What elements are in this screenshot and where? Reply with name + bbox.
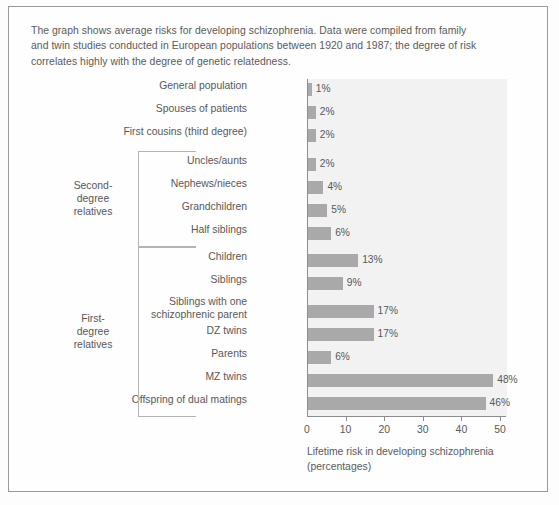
bar-value-label: 2%	[320, 157, 335, 171]
bar	[308, 129, 316, 142]
group-label-second-degree-relatives: Second- degree relatives	[57, 179, 129, 218]
x-axis-title-line2: (percentages)	[307, 461, 371, 472]
bar-value-label: 1%	[316, 82, 331, 96]
x-axis-tick	[461, 416, 462, 421]
bar	[308, 328, 374, 341]
bar-row: Children13%	[9, 250, 549, 272]
bar-row: Uncles/aunts2%	[9, 154, 549, 176]
x-axis-tick-label: 30	[408, 423, 438, 436]
bar-value-label: 4%	[327, 180, 342, 194]
bar-value-label: 9%	[347, 276, 362, 290]
bar-row: First cousins (third degree)2%	[9, 125, 549, 147]
bar-row: General population1%	[9, 79, 549, 101]
bar	[308, 106, 316, 119]
x-axis-tick	[384, 416, 385, 421]
bar-row-label: General population	[37, 79, 247, 92]
group-bracket	[138, 151, 196, 247]
bar	[308, 277, 343, 290]
bar	[308, 83, 312, 96]
bar	[308, 254, 358, 267]
group-label-first-degree-relatives: First- degree relatives	[57, 312, 129, 351]
bar	[308, 397, 486, 410]
bar-value-label: 46%	[490, 396, 510, 410]
bar	[308, 204, 327, 217]
bar	[308, 374, 493, 387]
x-axis-title: Lifetime risk in developing schizophreni…	[307, 445, 537, 474]
bar-row: Spouses of patients2%	[9, 102, 549, 124]
x-axis-tick	[500, 416, 501, 421]
bar-rows: General population1%Spouses of patients2…	[9, 79, 549, 416]
bar-value-label: 2%	[320, 105, 335, 119]
bar-value-label: 6%	[335, 226, 350, 240]
x-axis-tick-label: 0	[292, 423, 322, 436]
figure-page: The graph shows average risks for develo…	[0, 0, 559, 505]
bar-value-label: 48%	[497, 373, 517, 387]
bar	[308, 351, 331, 364]
bar-value-label: 5%	[331, 203, 346, 217]
bar	[308, 181, 323, 194]
bar-row: MZ twins48%	[9, 370, 549, 392]
bar-value-label: 13%	[362, 253, 382, 267]
x-axis-tick-label: 50	[485, 423, 515, 436]
x-axis-line	[307, 416, 506, 417]
figure-frame: The graph shows average risks for develo…	[8, 6, 548, 492]
x-axis-tick	[423, 416, 424, 421]
x-axis-title-line1: Lifetime risk in developing schizophreni…	[307, 446, 494, 457]
bar-value-label: 17%	[378, 327, 398, 341]
x-axis-tick	[346, 416, 347, 421]
bar	[308, 305, 374, 318]
bar-chart: General population1%Spouses of patients2…	[9, 7, 549, 493]
bar-row: Offspring of dual matings46%	[9, 393, 549, 415]
bar	[308, 227, 331, 240]
bar-row-label: Spouses of patients	[37, 102, 247, 115]
bar-row-label: First cousins (third degree)	[37, 125, 247, 138]
bar-row: Siblings9%	[9, 273, 549, 295]
bar-value-label: 17%	[378, 304, 398, 318]
x-axis-tick-label: 40	[446, 423, 476, 436]
x-axis-tick-label: 10	[331, 423, 361, 436]
bar-value-label: 2%	[320, 128, 335, 142]
group-bracket	[138, 247, 196, 417]
x-axis-tick-label: 20	[369, 423, 399, 436]
bar	[308, 158, 316, 171]
bar-value-label: 6%	[335, 350, 350, 364]
bar-row: Half siblings6%	[9, 223, 549, 245]
